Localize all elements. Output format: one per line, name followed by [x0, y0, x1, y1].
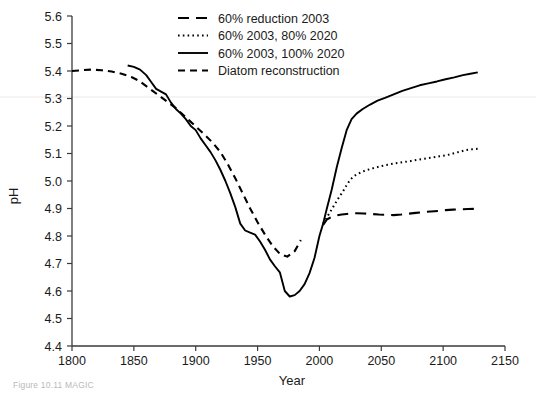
legend-label-3: 60% 2003, 100% 2020	[218, 47, 345, 61]
y-tick-label: 5.3	[45, 92, 62, 106]
legend-label-2: 60% 2003, 80% 2020	[218, 29, 338, 43]
y-tick-label: 5.2	[45, 120, 62, 134]
x-tick-label: 1800	[58, 354, 86, 368]
y-tick-label: 4.6	[45, 285, 62, 299]
y-tick-label: 5.1	[45, 147, 62, 161]
figure-caption: Figure 10.11 MAGIC	[13, 380, 94, 390]
x-tick-label: 2150	[491, 354, 519, 368]
y-tick-label: 4.4	[45, 340, 62, 354]
x-tick-label: 1950	[244, 354, 272, 368]
y-tick-label: 4.8	[45, 230, 62, 244]
ph-trend-line-chart: 4.44.54.64.74.84.95.05.15.25.35.45.55.6 …	[0, 0, 536, 394]
x-tick-label: 1900	[182, 354, 210, 368]
y-tick-label: 5.0	[45, 175, 62, 189]
x-tick-label: 2100	[429, 354, 457, 368]
y-tick-label: 4.9	[45, 202, 62, 216]
x-tick-label: 1850	[120, 354, 148, 368]
legend-label-4: Diatom reconstruction	[218, 64, 340, 78]
figure-container: 4.44.54.64.74.84.95.05.15.25.35.45.55.6 …	[0, 0, 536, 394]
x-tick-label: 2000	[306, 354, 334, 368]
y-tick-label: 4.7	[45, 257, 62, 271]
x-axis-title: Year	[279, 373, 306, 388]
x-tick-label: 2050	[367, 354, 395, 368]
y-tick-label: 5.6	[45, 10, 62, 24]
y-tick-label: 5.4	[45, 65, 62, 79]
y-tick-label: 4.5	[45, 312, 62, 326]
y-axis-title: pH	[6, 188, 21, 205]
y-tick-label: 5.5	[45, 37, 62, 51]
legend-label-1: 60% reduction 2003	[218, 12, 329, 26]
